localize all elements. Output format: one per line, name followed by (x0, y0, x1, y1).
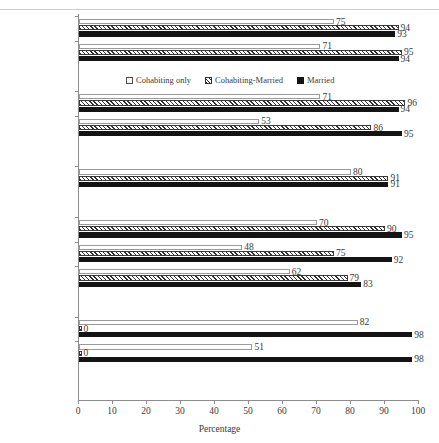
legend-item[interactable]: Cohabiting-Married (205, 75, 283, 85)
x-axis-tick (418, 400, 419, 404)
bar-spain-cohabiting-married (79, 351, 82, 356)
cropped-title-fragment (0, 0, 439, 9)
bar-great-britain-married (79, 257, 392, 262)
bar-value-label: 95 (404, 230, 414, 240)
bar-value-label: 93 (397, 29, 407, 39)
title-divider (0, 9, 439, 10)
x-axis-tick (350, 400, 351, 404)
chart-legend: Cohabiting onlyCohabiting-MarriedMarried (126, 75, 348, 85)
bar-spain-married (79, 357, 412, 362)
y-axis-tick (75, 266, 79, 267)
x-axis-tick (316, 400, 317, 404)
bar-switzerland-married (79, 131, 402, 136)
x-axis-tick (78, 400, 79, 404)
legend-item[interactable]: Married (297, 75, 334, 85)
bar-chart-figure: 0102030405060708090100Sweden759493Norway… (0, 0, 439, 443)
x-axis-tick-label: 0 (76, 406, 81, 416)
y-axis-tick (75, 91, 79, 92)
bar-united-states-cohabiting-married (79, 275, 348, 280)
bar-norway-married (79, 56, 399, 61)
x-axis-tick-label: 70 (311, 406, 321, 416)
bar-norway-cohabiting-only (79, 44, 320, 49)
bar-sweden-cohabiting-only (79, 19, 334, 24)
x-axis-tick-label: 60 (277, 406, 287, 416)
plot-area: 0102030405060708090100Sweden759493Norway… (78, 14, 418, 400)
bar-value-label: 95 (404, 129, 414, 139)
bar-switzerland-cohabiting-only (79, 119, 259, 124)
x-axis-title: Percentage (0, 424, 439, 434)
bar-west-germany-married (79, 182, 388, 187)
bar-italy-cohabiting-married (79, 326, 82, 331)
x-axis-tick-label: 30 (175, 406, 185, 416)
x-axis-tick (282, 400, 283, 404)
bar-value-label: 91 (390, 179, 400, 189)
bar-sweden-cohabiting-married (79, 25, 399, 30)
bar-france-cohabiting-married (79, 226, 385, 231)
bar-italy-cohabiting-only (79, 320, 358, 325)
bar-value-label: 94 (401, 104, 411, 114)
bar-sweden-married (79, 31, 395, 36)
bar-value-label: 98 (414, 354, 424, 364)
bar-west-germany-cohabiting-married (79, 176, 388, 181)
bar-great-britain-cohabiting-only (79, 245, 242, 250)
bar-value-label: 92 (394, 255, 404, 265)
y-axis-tick (75, 16, 79, 17)
x-axis-tick (384, 400, 385, 404)
x-axis-tick-label: 20 (141, 406, 151, 416)
legend-item-label: Cohabiting only (136, 75, 191, 85)
bar-spain-cohabiting-only (79, 344, 252, 349)
bar-austria-cohabiting-only (79, 94, 320, 99)
x-axis-tick-label: 50 (243, 406, 253, 416)
bar-value-label: 98 (414, 330, 424, 340)
y-axis-tick (75, 317, 79, 318)
bar-value-label: 94 (401, 54, 411, 64)
x-axis-tick (214, 400, 215, 404)
hatched-square-icon (205, 77, 212, 84)
bar-value-label: 83 (363, 279, 373, 289)
x-axis-tick-label: 10 (107, 406, 117, 416)
bar-france-cohabiting-only (79, 220, 317, 225)
bar-united-states-cohabiting-only (79, 269, 290, 274)
x-axis-tick-label: 40 (209, 406, 219, 416)
x-axis-tick (248, 400, 249, 404)
bar-value-label: 51 (254, 342, 264, 352)
x-axis-tick-label: 100 (411, 406, 425, 416)
bar-italy-married (79, 332, 412, 337)
legend-item-label: Cohabiting-Married (215, 75, 283, 85)
bar-united-states-married (79, 282, 361, 287)
bar-west-germany-cohabiting-only (79, 169, 351, 174)
filled-square-icon (297, 77, 304, 84)
y-axis-tick (75, 341, 79, 342)
y-axis-tick (75, 41, 79, 42)
y-axis-tick (75, 217, 79, 218)
x-axis-tick (112, 400, 113, 404)
open-square-icon (126, 77, 133, 84)
bar-austria-cohabiting-married (79, 100, 405, 105)
y-axis-tick (75, 242, 79, 243)
bar-great-britain-cohabiting-married (79, 251, 334, 256)
bar-france-married (79, 232, 402, 237)
legend-item-label: Married (307, 75, 334, 85)
y-axis-tick (75, 116, 79, 117)
bar-switzerland-cohabiting-married (79, 125, 371, 130)
x-axis-tick (146, 400, 147, 404)
legend-item[interactable]: Cohabiting only (126, 75, 191, 85)
bar-austria-married (79, 107, 399, 112)
bar-norway-cohabiting-married (79, 50, 402, 55)
bar-value-label: 82 (360, 317, 370, 327)
x-axis-tick (180, 400, 181, 404)
x-axis-tick-label: 90 (379, 406, 389, 416)
x-axis-tick-label: 80 (345, 406, 355, 416)
y-axis-tick (75, 166, 79, 167)
